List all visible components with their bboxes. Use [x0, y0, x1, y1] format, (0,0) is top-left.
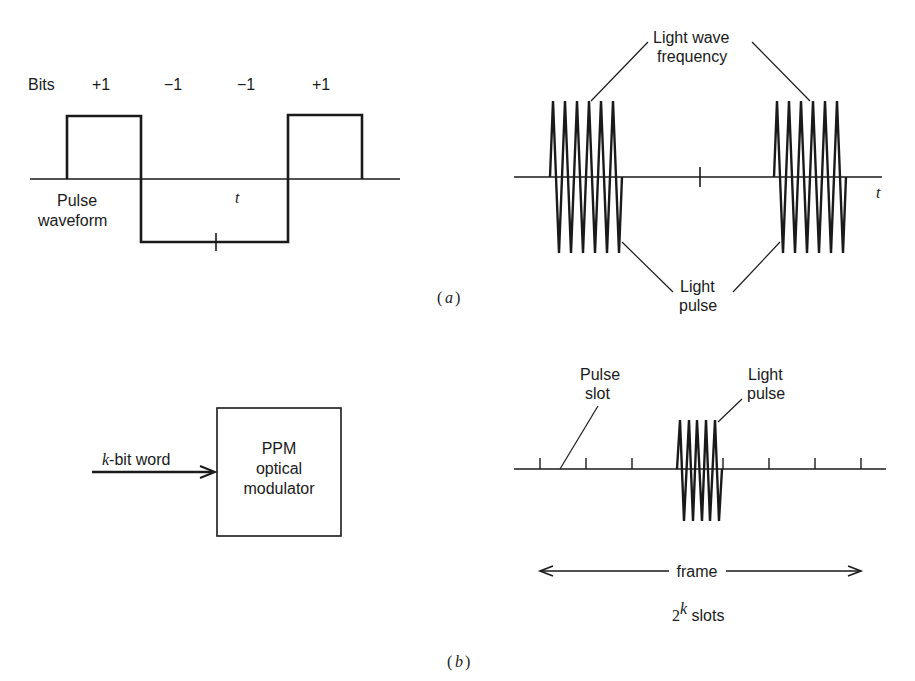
- pulse-callout-line-1: [622, 242, 673, 292]
- caption-a-open: (: [437, 289, 442, 307]
- ppm-diagram: Bits +1 −1 −1 +1 t Pulse waveform t Ligh…: [0, 0, 915, 681]
- modulator-label-line1: PPM: [262, 440, 297, 457]
- caption-b-open: (: [447, 653, 452, 671]
- frequency-callout-line-1: [591, 42, 648, 101]
- bit-value-4: +1: [312, 76, 330, 93]
- bit-value-3: −1: [237, 76, 255, 93]
- caption-b-close: ): [465, 653, 470, 671]
- light-wave-panel: t Light wave frequency Light pulse: [514, 29, 882, 314]
- caption-a-close: ): [455, 289, 460, 307]
- light-wave-label-line1: Light wave: [653, 29, 730, 46]
- light-pulse-burst-2: [774, 101, 846, 253]
- time-axis-label: t: [235, 189, 240, 206]
- pulse-waveform-label-line1: Pulse: [57, 192, 97, 209]
- modulator-label-line2: optical: [256, 460, 302, 477]
- frequency-callout-line-2: [752, 42, 810, 101]
- bits-label: Bits: [28, 76, 55, 93]
- ppm-modulator-panel: k-bit word PPM optical modulator: [92, 408, 341, 536]
- pulse-callout-line-2: [733, 242, 780, 292]
- light-pulse-callout-line: [718, 399, 742, 422]
- caption-a: ( a ): [437, 289, 460, 307]
- time-axis-label: t: [876, 184, 881, 201]
- pulse-waveform-panel: Bits +1 −1 −1 +1 t Pulse waveform: [28, 76, 400, 251]
- bit-value-2: −1: [164, 76, 182, 93]
- light-pulse-label-line2: pulse: [679, 297, 717, 314]
- ppm-frame-panel: Pulse slot Light pulse frame 2k slots: [514, 366, 886, 624]
- light-wave-label-line2: frequency: [657, 48, 727, 65]
- ppm-light-pulse: [677, 420, 722, 521]
- pulse-slot-callout-line: [560, 406, 598, 469]
- light-pulse-label-line2: pulse: [747, 385, 785, 402]
- modulator-label-line3: modulator: [243, 480, 315, 497]
- pulse-slot-label-line1: Pulse: [580, 366, 620, 383]
- light-pulse-burst-1: [550, 101, 622, 253]
- slot-count-label: 2k slots: [672, 600, 724, 624]
- caption-b: ( b ): [447, 653, 470, 671]
- light-pulse-label-line1: Light: [748, 366, 783, 383]
- bit-value-1: +1: [92, 76, 110, 93]
- caption-b-letter: b: [455, 653, 463, 670]
- light-pulse-label-line1: Light: [680, 278, 715, 295]
- frame-label: frame: [677, 563, 718, 580]
- caption-a-letter: a: [445, 289, 453, 306]
- pulse-waveform-label-line2: waveform: [37, 212, 107, 229]
- pulse-slot-label-line2: slot: [585, 385, 610, 402]
- k-bit-word-label: k-bit word: [102, 451, 170, 468]
